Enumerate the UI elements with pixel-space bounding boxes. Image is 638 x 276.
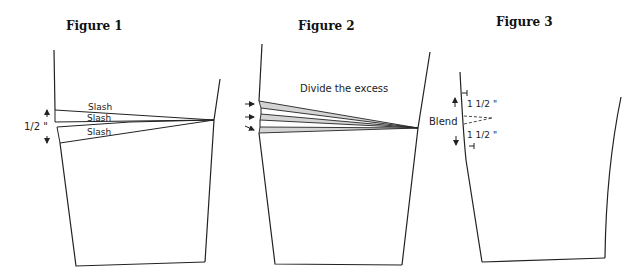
figure-3-top-tick (462, 90, 467, 96)
figure-2-title: Figure 2 (298, 19, 355, 33)
figure-2: Figure 2 Divide the excess (245, 19, 430, 265)
figure-1-slash-label-2: Slash (87, 113, 111, 123)
figure-1-upper-left-edge (54, 50, 55, 110)
pattern-diagram: Figure 1 Slash Slash Slash 1/2 " Figure … (0, 0, 638, 276)
figure-3-measure-top-label: 1 1/2 " (467, 99, 497, 109)
figure-1: Figure 1 Slash Slash Slash 1/2 " (24, 19, 220, 266)
figure-1-title: Figure 1 (66, 19, 123, 33)
figure-1-slash-label-3: Slash (87, 127, 111, 137)
figure-1-right-edge (205, 79, 220, 262)
figure-3-blend-dash-lower (464, 118, 492, 124)
figure-2-lower-body (259, 133, 402, 265)
figure-1-measurement-label: 1/2 " (24, 121, 48, 132)
figure-2-instruction-label: Divide the excess (300, 83, 388, 94)
figure-2-upper-left-edge (259, 44, 262, 101)
figure-1-lower-body (60, 143, 205, 266)
figure-1-slash-line-4 (57, 120, 214, 143)
figure-3-bottom-edge (482, 258, 605, 262)
figure-3-right-edge (605, 97, 621, 258)
figure-3: Figure 3 1 1/2 " 1 1/2 " Blend (429, 15, 621, 262)
figure-2-right-edge (402, 52, 430, 265)
figure-3-blend-label: Blend (429, 116, 457, 127)
figure-3-bottom-tick (469, 143, 474, 149)
figure-2-arrow-3-icon (245, 126, 254, 130)
figure-1-slash-label-1: Slash (88, 102, 112, 112)
figure-3-title: Figure 3 (496, 15, 553, 29)
figure-3-blend-dash-upper (464, 116, 492, 118)
figure-1-slash-line-1 (55, 110, 214, 120)
figure-2-wedge-3 (259, 127, 418, 133)
figure-3-measure-bottom-label: 1 1/2 " (467, 130, 497, 140)
